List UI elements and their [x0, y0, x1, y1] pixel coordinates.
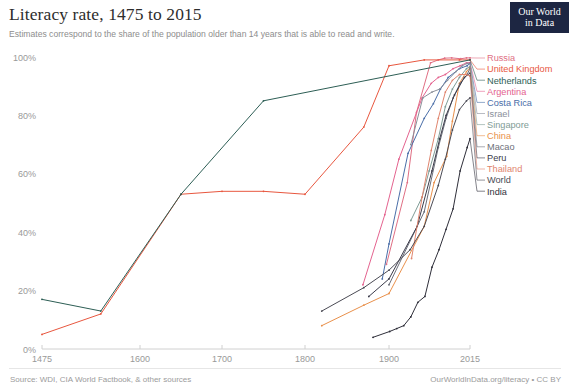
data-point-marker [41, 334, 43, 336]
data-point-marker [100, 310, 102, 312]
legend-item-china[interactable]: China [487, 131, 512, 141]
data-point-marker [447, 79, 449, 81]
data-point-marker [407, 152, 409, 154]
data-point-marker [432, 103, 434, 105]
data-point-marker [406, 182, 408, 184]
legend-item-costa-rica[interactable]: Costa Rica [487, 98, 533, 108]
data-point-marker [466, 68, 468, 70]
data-point-marker [386, 263, 388, 265]
data-point-marker [422, 97, 424, 99]
data-point-marker [263, 190, 265, 192]
series-lines [41, 57, 471, 338]
series-line[interactable] [389, 68, 470, 285]
data-point-marker [459, 170, 461, 172]
chart-container: Literacy rate, 1475 to 2015 Estimates co… [0, 0, 570, 391]
data-point-marker [410, 316, 412, 318]
data-point-marker [454, 94, 456, 96]
legend-leader-line [470, 60, 485, 69]
x-tick-label: 2015 [460, 354, 480, 364]
footer-divider [9, 368, 561, 369]
legend-leader-lines [470, 58, 485, 191]
data-point-marker [424, 296, 426, 298]
legend-item-peru[interactable]: Peru [487, 153, 506, 163]
data-point-marker [372, 336, 374, 338]
series-line[interactable] [42, 60, 470, 311]
legend-item-india[interactable]: India [487, 187, 508, 197]
data-point-marker [411, 258, 413, 260]
data-point-marker [388, 269, 390, 271]
data-point-marker [368, 296, 370, 298]
data-point-marker [451, 129, 453, 131]
data-point-marker [437, 185, 439, 187]
data-point-marker [410, 144, 412, 146]
data-point-marker [444, 158, 446, 160]
data-point-marker [431, 170, 433, 172]
legend-labels[interactable]: RussiaUnited KingdomNetherlandsArgentina… [487, 53, 553, 196]
data-point-marker [466, 147, 468, 149]
data-point-marker [180, 193, 182, 195]
data-point-marker [466, 65, 468, 67]
series-line[interactable] [322, 68, 470, 326]
data-point-marker [431, 266, 433, 268]
data-point-marker [410, 220, 412, 222]
data-point-marker [363, 304, 365, 306]
data-point-marker [466, 63, 468, 65]
data-point-marker [363, 126, 365, 128]
legend-item-argentina[interactable]: Argentina [487, 87, 527, 97]
line-chart-plot: 0%20%40%60%80%100% 147516001700180019002… [0, 0, 570, 391]
x-tick-label: 1475 [32, 354, 52, 364]
data-point-marker [388, 278, 390, 280]
data-point-marker [444, 106, 446, 108]
series-line[interactable] [373, 139, 470, 338]
data-point-marker [439, 138, 441, 140]
data-point-marker [447, 77, 449, 79]
data-point-marker [417, 301, 419, 303]
data-point-marker [466, 100, 468, 102]
series-line[interactable] [322, 98, 470, 311]
legend-item-russia[interactable]: Russia [487, 53, 516, 63]
data-point-marker [41, 298, 43, 300]
legend-item-macao[interactable]: Macao [487, 142, 515, 152]
data-point-marker [389, 331, 391, 333]
y-tick-label: 60% [18, 169, 36, 179]
data-point-marker [430, 150, 432, 152]
data-point-marker [452, 68, 454, 70]
data-point-marker [445, 115, 447, 117]
data-point-marker [466, 74, 468, 76]
data-point-marker [409, 249, 411, 251]
x-tick-label: 1700 [212, 354, 232, 364]
data-point-marker [459, 59, 461, 61]
legend-item-united-kingdom[interactable]: United Kingdom [487, 64, 553, 74]
x-tick-label: 1900 [379, 354, 399, 364]
y-tick-label: 40% [18, 228, 36, 238]
data-point-marker [304, 193, 306, 195]
data-point-marker [423, 59, 425, 61]
data-point-marker [437, 77, 439, 79]
data-point-marker [398, 158, 400, 160]
y-tick-label: 0% [23, 345, 36, 355]
data-point-marker [221, 190, 223, 192]
legend-item-netherlands[interactable]: Netherlands [487, 76, 537, 86]
data-point-marker [421, 196, 423, 198]
y-tick-label: 20% [18, 286, 36, 296]
data-point-marker [437, 117, 439, 119]
data-point-marker [433, 182, 435, 184]
data-point-marker [381, 278, 383, 280]
data-point-marker [388, 65, 390, 67]
legend-item-israel[interactable]: Israel [487, 109, 509, 119]
data-point-marker [423, 117, 425, 119]
legend-item-thailand[interactable]: Thailand [487, 164, 522, 174]
data-point-marker [459, 74, 461, 76]
data-point-marker [459, 109, 461, 111]
data-point-marker [384, 214, 386, 216]
y-axis-labels: 0%20%40%60%80%100% [13, 53, 36, 355]
x-tick-label: 1800 [295, 354, 315, 364]
data-point-marker [362, 284, 364, 286]
data-point-marker [451, 57, 453, 59]
data-point-marker [459, 65, 461, 67]
legend-item-singapore[interactable]: Singapore [487, 120, 529, 130]
legend-item-world[interactable]: World [487, 175, 511, 185]
series-line[interactable] [42, 60, 470, 334]
data-point-marker [460, 58, 462, 60]
data-point-marker [455, 71, 457, 73]
